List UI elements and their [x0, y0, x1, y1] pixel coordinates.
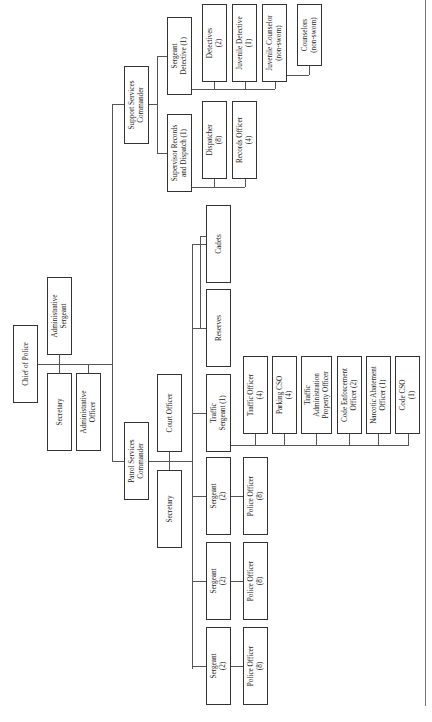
- connector: [157, 153, 167, 154]
- connector: [214, 179, 215, 187]
- connector: [88, 364, 89, 373]
- connector: [287, 75, 309, 76]
- box-sergeant-detective: Sergeant Detective (1): [167, 17, 192, 95]
- connector: [38, 364, 112, 365]
- box-sergeant-1: Sergeant (2): [206, 457, 231, 535]
- box-traffic-sergeant: Traffic Sergeant (1): [206, 374, 231, 452]
- box-patrol-secretary: Secretary: [157, 470, 182, 548]
- connector: [231, 445, 409, 446]
- connector: [192, 89, 275, 90]
- connector: [192, 496, 206, 497]
- connector: [200, 236, 201, 328]
- box-patrol-services-commander: Patrol Services Commander: [124, 422, 149, 500]
- connector: [112, 104, 113, 461]
- box-administrative-sergeant: Administrative Sergeant: [47, 277, 72, 355]
- box-dispatcher: Dispatcher (8): [202, 101, 227, 179]
- box-code-enforcement-officer: Code Enforcement Officer (2): [337, 356, 362, 434]
- connector: [59, 355, 60, 373]
- connector: [284, 434, 285, 445]
- connector: [192, 244, 193, 669]
- box-support-services-commander: Support Services Commander: [124, 66, 149, 144]
- box-counselors: Counselors (non-sworn): [297, 4, 322, 66]
- box-parking-cso: Parking CSO (4): [272, 356, 297, 434]
- connector: [112, 461, 124, 462]
- connector: [245, 179, 246, 187]
- connector: [349, 434, 350, 445]
- connector: [316, 434, 317, 445]
- box-traffic-admin-property-officer: Traffic Administration Property Officer: [301, 356, 332, 434]
- connector: [255, 434, 256, 445]
- box-detectives: Detectives (2): [202, 4, 227, 82]
- connector: [408, 434, 409, 445]
- connector: [192, 244, 206, 245]
- box-traffic-officer: Traffic Officer (4): [243, 356, 268, 434]
- page-edge-rule: [425, 0, 426, 706]
- connector: [157, 56, 158, 153]
- connector: [378, 434, 379, 445]
- connector: [112, 104, 124, 105]
- box-code-cso: Code CSO (1): [395, 356, 420, 434]
- connector: [192, 413, 206, 414]
- box-records-officer: Records Officer (4): [232, 101, 257, 179]
- connector: [157, 56, 167, 57]
- connector: [309, 66, 310, 75]
- connector: [192, 581, 206, 582]
- connector: [231, 496, 243, 497]
- connector: [214, 82, 215, 89]
- box-court-officer: Court Officer: [157, 374, 182, 452]
- connector: [149, 104, 157, 105]
- box-admin-secretary: Secretary: [47, 373, 72, 451]
- connector: [169, 452, 170, 470]
- connector: [192, 666, 206, 667]
- connector: [245, 82, 246, 89]
- connector: [192, 187, 245, 188]
- box-chief-of-police: Chief of Police: [13, 325, 38, 403]
- box-juvenile-detective: Juvenile Detective (1): [232, 4, 257, 82]
- box-supervisor-records-dispatch: Supervisor Records and Dispatch (1): [167, 114, 192, 192]
- connector: [231, 581, 243, 582]
- box-juvenile-counselor: Juvenile Counselor (non-sworn): [262, 4, 287, 82]
- box-cadets: Cadets: [206, 205, 231, 283]
- box-police-officer-3: Police Officer (8): [243, 627, 268, 705]
- box-reserves: Reserves: [206, 289, 231, 367]
- connector: [192, 328, 206, 329]
- box-narcotic-abatement-officer: Narcotic Abatement Officer (1): [366, 356, 391, 434]
- connector: [231, 666, 243, 667]
- box-police-officer-1: Police Officer (8): [243, 457, 268, 535]
- org-chart: Chief of Police Administrative Sergeant …: [0, 0, 432, 722]
- connector: [275, 82, 276, 89]
- box-police-officer-2: Police Officer (8): [243, 542, 268, 620]
- box-sergeant-3: Sergeant (2): [206, 627, 231, 705]
- box-administrative-officer: Administrative Officer: [76, 373, 101, 451]
- connector: [149, 461, 192, 462]
- box-sergeant-2: Sergeant (2): [206, 542, 231, 620]
